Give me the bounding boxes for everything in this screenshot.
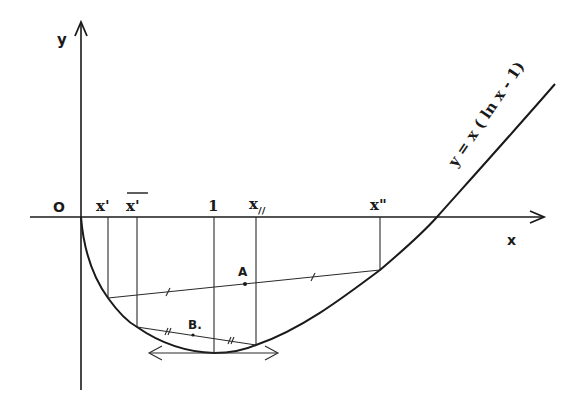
diagram-canvas: y x O x' x' 1 x // x" A B. y = x ( ln x … bbox=[0, 0, 578, 405]
label-x-double-prime: x" bbox=[370, 196, 387, 214]
origin-label: O bbox=[53, 199, 65, 215]
label-point-B: B. bbox=[188, 318, 202, 332]
double-tick-icon bbox=[231, 337, 234, 344]
x-axis-label: x bbox=[507, 232, 516, 248]
point-A bbox=[243, 282, 247, 286]
curve-equation-label: y = x ( ln x - 1) bbox=[444, 58, 528, 171]
label-x-double-slash-sub: // bbox=[258, 205, 266, 216]
label-point-A: A bbox=[238, 265, 248, 279]
label-x-bar-prime: x' bbox=[126, 197, 140, 215]
point-B bbox=[191, 333, 194, 336]
y-axis-label: y bbox=[57, 31, 67, 49]
label-one: 1 bbox=[208, 197, 218, 215]
label-x-prime: x' bbox=[96, 197, 110, 215]
